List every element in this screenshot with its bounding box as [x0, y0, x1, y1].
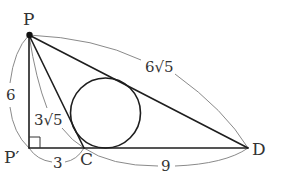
arc-pp-prime-lower — [10, 107, 29, 148]
label-p-prime: P′ — [4, 147, 19, 167]
label-c: C — [80, 149, 93, 169]
arc-pd-lower — [175, 74, 248, 148]
length-pd: 6√5 — [145, 58, 174, 76]
length-cd: 9 — [161, 157, 171, 175]
arc-pc-upper — [29, 35, 47, 108]
arc-pp-prime-upper — [10, 35, 29, 83]
length-pc: 3√5 — [34, 111, 63, 129]
label-d: D — [252, 139, 266, 159]
segment-pd — [29, 35, 248, 148]
arc-cd-right — [175, 148, 248, 166]
arc-p-prime-c-left — [29, 148, 52, 162]
arc-cd-left — [84, 148, 158, 166]
label-p: P — [23, 9, 34, 29]
incircle — [71, 78, 141, 148]
geometry-diagram: P P′ C D 6 3√5 6√5 3 9 — [0, 0, 283, 184]
right-angle-marker — [29, 137, 40, 148]
length-p-prime-c: 3 — [53, 154, 63, 172]
length-pp-prime: 6 — [6, 86, 16, 104]
arc-pd-upper — [29, 35, 141, 60]
point-p-dot — [26, 32, 32, 38]
